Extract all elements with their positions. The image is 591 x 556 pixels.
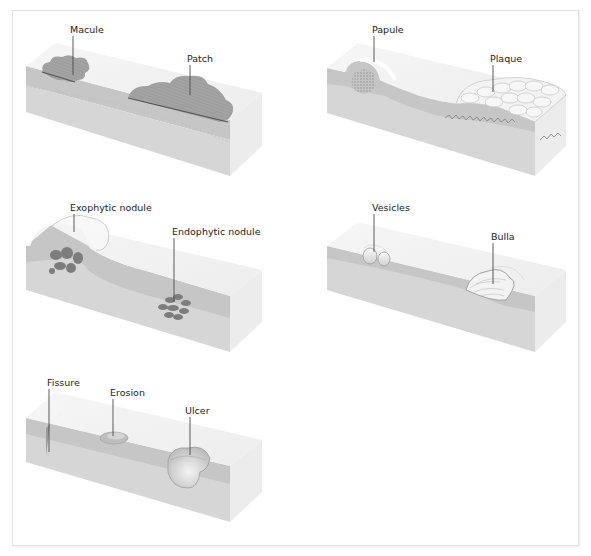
panel-papule-plaque: Papule Plaque [327, 24, 566, 176]
panel-fissure-erosion-ulcer: Fissure Erosion Ulcer [26, 377, 262, 522]
label-bulla: Bulla [491, 231, 515, 242]
label-vesicles: Vesicles [372, 202, 410, 213]
label-patch: Patch [187, 53, 213, 64]
label-plaque: Plaque [490, 53, 522, 64]
panel-vesicles-bulla: Vesicles Bulla [327, 202, 566, 352]
panel-macule-patch: Macule Patch [26, 24, 262, 176]
label-exophytic-nodule: Exophytic nodule [70, 202, 152, 213]
label-papule: Papule [372, 24, 404, 35]
panel-nodules: Exophytic nodule Endophytic nodule [26, 202, 262, 352]
label-erosion: Erosion [110, 387, 145, 398]
label-macule: Macule [70, 24, 104, 35]
label-endophytic-nodule: Endophytic nodule [172, 226, 261, 237]
lesion-diagram: Macule Patch [0, 0, 591, 556]
label-fissure: Fissure [47, 377, 80, 388]
label-ulcer: Ulcer [185, 405, 210, 416]
